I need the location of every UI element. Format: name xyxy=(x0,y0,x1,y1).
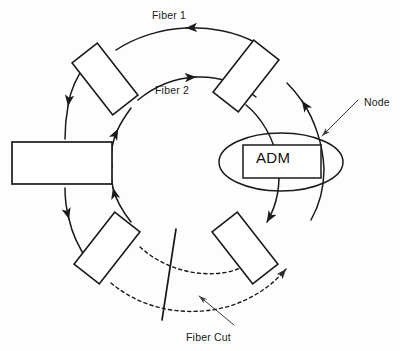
fiber2-arc-upper-left xyxy=(111,108,131,168)
node-left[interactable] xyxy=(12,142,112,184)
fiber-cut-line xyxy=(162,229,176,320)
node-bottom-right[interactable] xyxy=(212,212,278,284)
node-top-left[interactable] xyxy=(72,43,138,115)
label-fiber-cut: Fiber Cut xyxy=(186,331,231,343)
label-node: Node xyxy=(364,96,390,108)
node-pointer-arrow xyxy=(322,100,358,136)
label-adm: ADM xyxy=(256,149,290,166)
fiber1-arc-top xyxy=(116,28,258,50)
node-top-right[interactable] xyxy=(213,40,279,112)
ring-network-diagram xyxy=(0,0,400,351)
diagram-canvas: Fiber 1 Fiber 2 Node Fiber Cut ADM xyxy=(0,0,400,351)
fiber-cut-pointer-arrow xyxy=(199,296,234,325)
label-fiber-2: Fiber 2 xyxy=(155,84,189,96)
node-bottom-left[interactable] xyxy=(74,212,140,284)
label-fiber-1: Fiber 1 xyxy=(152,9,186,21)
